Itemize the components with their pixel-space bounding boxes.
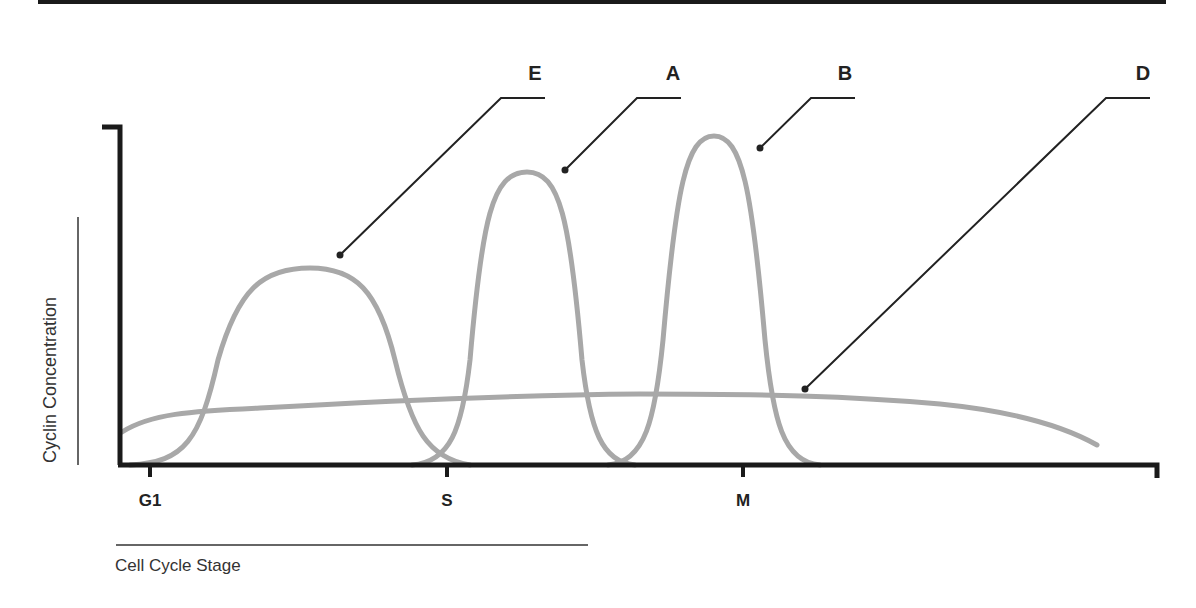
curves <box>122 136 1097 465</box>
top-border <box>38 0 1166 4</box>
callout-line-a <box>565 98 681 170</box>
curve-d <box>122 394 1097 445</box>
callout-label-e: E <box>528 62 541 85</box>
x-axis <box>118 465 1157 478</box>
callout-line-b <box>760 98 855 148</box>
y-axis <box>102 127 120 465</box>
tick-label-m: M <box>736 491 750 511</box>
cyclin-diagram: Cyclin Concentration Cell Cycle Stage G1… <box>0 0 1196 608</box>
callout-dot-e <box>337 252 344 259</box>
tick-label-g1: G1 <box>139 491 162 511</box>
callout-dot-b <box>757 145 764 152</box>
callout-lines <box>340 98 1150 389</box>
curve-a <box>412 172 635 465</box>
callout-label-d: D <box>1136 62 1150 85</box>
callout-dot-a <box>562 167 569 174</box>
callout-label-a: A <box>666 62 680 85</box>
x-axis-label: Cell Cycle Stage <box>115 556 241 576</box>
callout-dot-d <box>802 386 809 393</box>
y-axis-label: Cyclin Concentration <box>40 297 61 463</box>
callout-line-d <box>805 98 1150 389</box>
axes <box>102 127 1157 478</box>
curve-e <box>130 268 470 465</box>
tick-label-s: S <box>441 491 452 511</box>
diagram-canvas <box>0 0 1196 608</box>
callout-label-b: B <box>838 62 852 85</box>
curve-b <box>608 136 820 465</box>
